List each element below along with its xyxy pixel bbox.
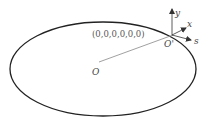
local-origin-label: O' [164,39,174,49]
origin-label: O [92,67,100,77]
y-axis-label: y [174,8,181,18]
tuple-label: (0,0,0,0,0,0) [92,29,145,39]
x-axis-label: x [187,19,192,29]
x-axis-arrow [172,28,186,35]
s-axis-label: s [194,36,199,46]
ellipse-diagram: y x s (0,0,0,0,0,0) O' O [0,0,206,125]
radius-line [99,35,173,62]
